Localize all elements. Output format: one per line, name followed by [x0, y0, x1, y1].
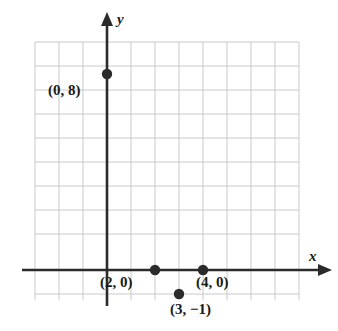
point-label-4-0: (4, 0): [196, 275, 229, 290]
data-point-0-8: [102, 69, 112, 79]
x-axis-label: x: [309, 249, 317, 264]
point-label-0-8: (0, 8): [48, 83, 81, 98]
x-axis: [22, 264, 332, 276]
grid-lines-horizontal: [35, 42, 299, 294]
data-point-2-0: [150, 265, 160, 275]
point-label-2-0: (2, 0): [100, 275, 133, 290]
y-axis: [101, 12, 113, 306]
graph-canvas: [0, 0, 338, 331]
grid-lines-vertical: [35, 42, 299, 300]
point-label-3-neg1: (3, −1): [170, 302, 211, 317]
y-axis-label: y: [117, 12, 124, 27]
coordinate-plane-figure: (0, 8) (2, 0) (4, 0) (3, −1) y x: [0, 0, 338, 331]
data-point-3-neg1: [174, 289, 184, 299]
